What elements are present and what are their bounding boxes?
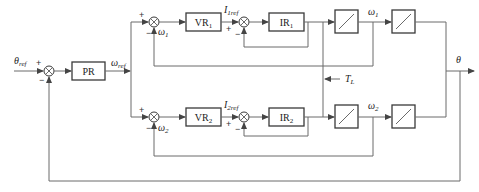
sum-junction-position [44, 66, 54, 76]
input-signal: θref + [14, 55, 43, 71]
sum-position-plus: + [36, 58, 41, 68]
block-ir2: IR2 [269, 108, 304, 126]
omega2-feedback-label: ω2 [158, 122, 169, 135]
block-position-integrator-1 [392, 10, 415, 33]
omega1-feedback-label: ω1 [158, 26, 169, 39]
block-vr2: VR2 [186, 108, 221, 126]
sum-position-minus: − [39, 75, 44, 85]
i2ref-label: I2ref [223, 99, 239, 112]
sum-speed2-plus: + [139, 105, 144, 115]
sum-junction-current-1 [239, 17, 249, 27]
i1ref-label: I1ref [223, 4, 239, 17]
theta-ref-label: θref [14, 55, 27, 68]
block-vr1: VR1 [186, 13, 221, 31]
sum-junction-current-2 [239, 112, 249, 122]
sum-current2-plus: + [226, 119, 231, 129]
omega2-label: ω2 [368, 100, 379, 113]
theta-output-label: θ [456, 54, 461, 65]
sum-speed1-plus: + [139, 10, 144, 20]
svg-text:PR: PR [82, 66, 95, 77]
block-motor-1-integrator [335, 10, 358, 33]
block-ir1: IR1 [269, 13, 304, 31]
sum-current2-minus: − [235, 124, 240, 134]
omega1-label: ω1 [368, 6, 379, 19]
sum-current1-minus: − [235, 29, 240, 39]
sum-current1-plus: + [226, 24, 231, 34]
sum-junction-speed-2 [149, 112, 159, 122]
omega-ref-label: ωref [111, 57, 127, 70]
block-position-integrator-2 [392, 105, 415, 128]
control-block-diagram: θref + − PR ωref + − ω1 VR1 I1ref + − [0, 0, 479, 192]
sum-speed2-minus: − [146, 123, 151, 133]
block-motor-2-integrator [335, 105, 358, 128]
block-pr: PR [72, 62, 105, 80]
tl-label: TL [345, 73, 355, 86]
sum-speed1-minus: − [146, 28, 151, 38]
